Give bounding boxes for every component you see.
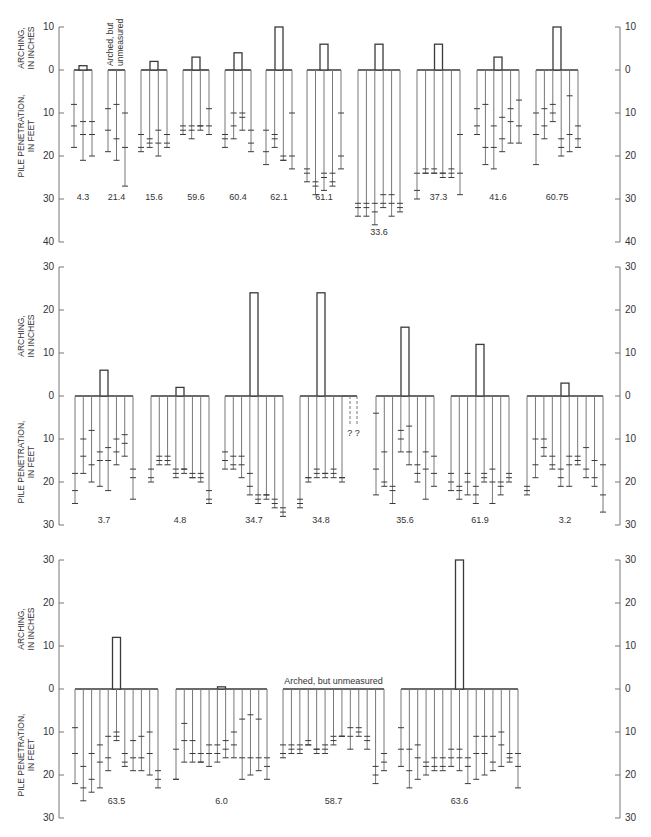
axis-tick-label: 0 <box>625 683 631 694</box>
group-value-label: 61.1 <box>315 192 333 202</box>
arching-bar <box>250 293 258 396</box>
arching-bar <box>79 66 87 70</box>
group-value-label: 62.1 <box>270 192 288 202</box>
axis-tick-label: 10 <box>43 726 55 737</box>
group-value-label: 3.2 <box>559 515 572 525</box>
axis-tick-label: 30 <box>43 519 55 530</box>
arching-bar <box>320 44 328 70</box>
group-value-label: 34.7 <box>245 515 263 525</box>
axis-tick-label: 20 <box>625 150 637 161</box>
arching-label-line1: ARCHING, <box>16 27 26 69</box>
axis-tick-label: 40 <box>625 236 637 247</box>
axis-tick-label: 0 <box>625 390 631 401</box>
axis-tick-label: 10 <box>625 433 637 444</box>
panel-1: 1001020304010010203040ARCHING,IN INCHESP… <box>16 18 637 247</box>
axis-tick-label: 10 <box>625 347 637 358</box>
penetration-axis-title: PILE PENETRATION,IN FEET <box>16 421 36 504</box>
group-value-label: 61.9 <box>471 515 489 525</box>
penetration-label-line2: IN FEET <box>26 446 36 479</box>
arching-label-line1: ARCHING, <box>16 315 26 357</box>
axis-tick-label: 10 <box>43 21 55 32</box>
group-value-label: 60.4 <box>229 192 247 202</box>
pile-group: 33.6 <box>355 44 403 237</box>
pile-group: 4.3 <box>71 66 95 202</box>
penetration-label-line2: IN FEET <box>26 739 36 772</box>
penetration-axis-title: PILE PENETRATION,IN FEET <box>16 714 36 797</box>
axis-tick-label: 0 <box>48 64 54 75</box>
group-value-label: 33.6 <box>370 227 388 237</box>
arching-bar <box>435 44 443 70</box>
pile-group: 15.6 <box>138 61 170 202</box>
panel-2: 30201001020303020100102030ARCHING,IN INC… <box>16 261 637 530</box>
axis-tick-label: 0 <box>48 390 54 401</box>
pile-group: 59.6 <box>180 57 212 202</box>
axis-tick-label: 10 <box>625 640 637 651</box>
arching-bar <box>176 387 184 396</box>
pile-group: 34.7 <box>222 293 286 525</box>
axis-tick-label: 20 <box>625 304 637 315</box>
unmeasured-note-line1: Arched, but <box>105 22 115 66</box>
arching-bar <box>234 53 242 70</box>
axis-tick-label: 30 <box>43 261 55 272</box>
axis-tick-label: 20 <box>43 304 55 315</box>
group-value-label: 63.5 <box>108 796 126 806</box>
group-value-label: 35.6 <box>396 515 414 525</box>
arching-bar <box>476 344 484 396</box>
pile-group: ? ?34.8 <box>297 293 360 525</box>
arching-bar <box>401 327 409 396</box>
axis-tick-label: 30 <box>625 812 637 823</box>
group-value-label: 34.8 <box>312 515 330 525</box>
group-value-label: 58.7 <box>325 796 343 806</box>
axis-tick-label: 20 <box>43 150 55 161</box>
pile-group: 63.6 <box>398 560 521 806</box>
arching-bar <box>317 293 325 396</box>
axis-tick-label: 30 <box>43 554 55 565</box>
arching-bar <box>218 687 226 689</box>
axis-tick-label: 40 <box>43 236 55 247</box>
group-value-label: 59.6 <box>187 192 205 202</box>
arching-axis-title: ARCHING,IN INCHES <box>16 26 36 69</box>
unmeasured-note-line2: unmeasured <box>115 18 125 66</box>
group-value-label: 6.0 <box>215 796 228 806</box>
axis-tick-label: 0 <box>625 64 631 75</box>
panel-3: 30201001020303020100102030ARCHING,IN INC… <box>16 554 637 823</box>
arching-label-line2: IN INCHES <box>26 314 36 357</box>
axis-tick-label: 10 <box>43 640 55 651</box>
arching-axis-title: ARCHING,IN INCHES <box>16 314 36 357</box>
pile-group: 37.3 <box>414 44 463 202</box>
axis-tick-label: 10 <box>43 107 55 118</box>
pile-group: 3.7 <box>72 370 136 525</box>
axis-tick-label: 10 <box>625 21 637 32</box>
axis-tick-label: 10 <box>625 726 637 737</box>
arching-bar <box>113 637 121 689</box>
penetration-label-line1: PILE PENETRATION, <box>16 95 26 178</box>
penetration-label-line1: PILE PENETRATION, <box>16 421 26 504</box>
pile-group: Arched, butunmeasured21.4 <box>105 18 129 202</box>
axis-tick-label: 20 <box>43 597 55 608</box>
group-value-label: 60.75 <box>546 192 569 202</box>
unmeasured-note: Arched, but unmeasured <box>284 676 383 686</box>
axis-tick-label: 30 <box>625 193 637 204</box>
axis-tick-label: 20 <box>43 769 55 780</box>
arching-bar <box>192 57 200 70</box>
arching-label-line1: ARCHING, <box>16 608 26 650</box>
arching-label-line2: IN INCHES <box>26 26 36 69</box>
arching-bar <box>100 370 108 396</box>
pile-group: 62.1 <box>263 27 295 202</box>
pile-group: 41.6 <box>474 57 522 202</box>
arching-bar <box>494 57 502 70</box>
axis-tick-label: 20 <box>625 476 637 487</box>
pile-group: 61.1 <box>304 44 344 202</box>
arching-bar <box>456 560 464 689</box>
pile-group: 35.6 <box>373 327 437 525</box>
axis-tick-label: 10 <box>625 107 637 118</box>
group-value-label: 15.6 <box>145 192 163 202</box>
pile-group: 60.4 <box>222 53 254 202</box>
axis-tick-label: 30 <box>625 554 637 565</box>
pile-group: 3.2 <box>524 383 606 525</box>
pile-group: Arched, but unmeasured58.7 <box>280 676 387 806</box>
group-value-label: 4.3 <box>77 192 90 202</box>
unknown-note: ? ? <box>347 428 360 438</box>
arching-bar <box>275 27 283 70</box>
axis-tick-label: 20 <box>43 476 55 487</box>
